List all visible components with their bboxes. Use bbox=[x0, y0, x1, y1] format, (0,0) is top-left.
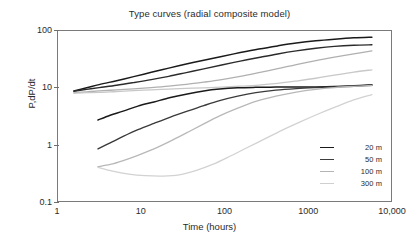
x-tick-label: 100 bbox=[217, 206, 232, 216]
legend-line-swatch bbox=[320, 183, 334, 184]
y-tick-mark bbox=[54, 87, 59, 88]
legend-label: 100 m bbox=[338, 167, 382, 176]
x-tick-label: 1000 bbox=[298, 206, 318, 216]
chart-figure: Type curves (radial composite model) P,d… bbox=[0, 0, 419, 246]
series-line bbox=[98, 85, 372, 149]
x-tick-label: 10,000 bbox=[378, 206, 406, 216]
x-axis-label: Time (hours) bbox=[0, 221, 419, 232]
chart-legend: 20 m50 m100 m300 m bbox=[320, 141, 386, 189]
legend-line-swatch bbox=[320, 159, 334, 160]
y-tick-mark bbox=[54, 202, 59, 203]
legend-label: 50 m bbox=[338, 155, 382, 164]
legend-item[interactable]: 300 m bbox=[320, 177, 386, 189]
legend-line-swatch bbox=[320, 171, 334, 172]
x-tick-label: 10 bbox=[136, 206, 146, 216]
legend-item[interactable]: 50 m bbox=[320, 153, 386, 165]
legend-label: 300 m bbox=[338, 179, 382, 188]
y-tick-mark bbox=[54, 30, 59, 31]
legend-item[interactable]: 100 m bbox=[320, 165, 386, 177]
x-tick-label: 1 bbox=[54, 206, 59, 216]
legend-item[interactable]: 20 m bbox=[320, 141, 386, 153]
y-tick-mark bbox=[54, 145, 59, 146]
series-line bbox=[74, 45, 372, 91]
legend-label: 20 m bbox=[338, 143, 382, 152]
legend-line-swatch bbox=[320, 147, 334, 148]
